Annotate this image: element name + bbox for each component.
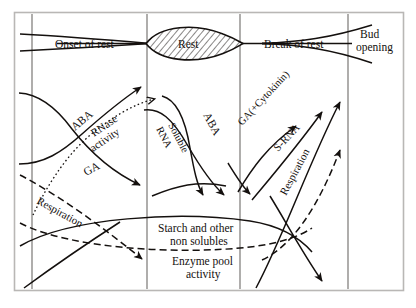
label-starch-line1: Starch and other (158, 222, 234, 234)
label-bud-opening-line1: Bud (360, 28, 379, 40)
label-onset-of-rest: Onset of rest (55, 38, 115, 50)
label-rest: Rest (178, 38, 199, 50)
figure-canvas: Onset of rest Rest Break of rest Bud ope… (0, 0, 416, 308)
label-starch-line2: non solubles (170, 235, 228, 247)
label-enzyme-line1: Enzyme pool (172, 255, 233, 268)
label-break-of-rest: Break of rest (264, 38, 324, 50)
label-enzyme-line2: activity (186, 268, 221, 281)
bud-dormancy-diagram: Onset of rest Rest Break of rest Bud ope… (0, 0, 416, 308)
label-bud-opening-line2: opening (356, 41, 393, 54)
